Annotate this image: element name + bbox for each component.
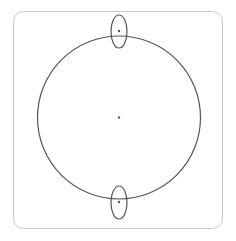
diagram-frame <box>14 12 223 229</box>
center-point <box>118 116 120 118</box>
top-point <box>118 30 120 32</box>
bottom-point <box>118 201 120 203</box>
diagram-canvas <box>0 0 236 241</box>
